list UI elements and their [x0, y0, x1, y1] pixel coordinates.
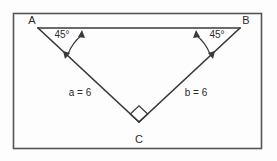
side-label-b: b = 6 [185, 87, 208, 98]
side-label-a: a = 6 [69, 87, 92, 98]
vertex-label-c: C [135, 133, 143, 145]
angle-label-a: 45° [54, 29, 69, 40]
vertex-label-a: A [28, 14, 36, 26]
angle-arc-b-arrowhead-top [193, 30, 200, 38]
right-angle-marker-c [130, 106, 147, 122]
angle-label-b: 45° [209, 29, 224, 40]
triangle-side-a [38, 28, 139, 122]
angle-arc-a-arrowhead-top [78, 30, 85, 38]
geometry-figure: A B C 45° 45° a = 6 b = 6 [0, 0, 277, 161]
angle-arc-a [68, 35, 82, 54]
angle-arc-b [196, 35, 210, 54]
diagram-canvas: A B C 45° 45° a = 6 b = 6 [0, 0, 277, 161]
vertex-label-b: B [242, 14, 249, 26]
triangle-side-b [139, 28, 240, 122]
